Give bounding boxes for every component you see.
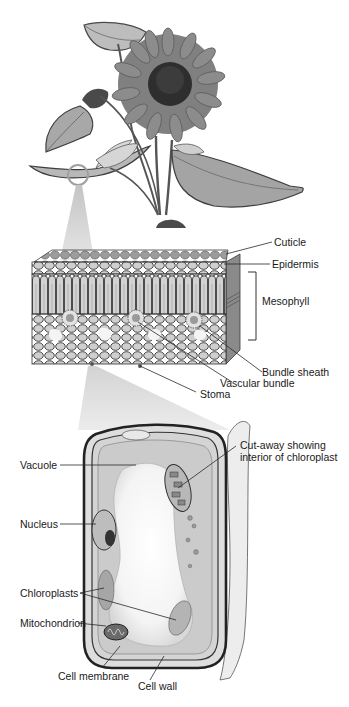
leaf-cross-section xyxy=(32,250,240,368)
label-cutaway-chloroplast: Cut-away showing interior of chloroplast xyxy=(240,439,349,463)
callout-cone-leaf xyxy=(60,185,94,260)
mitochondrion xyxy=(104,624,128,640)
label-epidermis: Epidermis xyxy=(272,258,319,270)
label-mesophyll: Mesophyll xyxy=(262,295,309,307)
illustration xyxy=(0,0,349,707)
label-cuticle: Cuticle xyxy=(274,236,306,248)
label-vacuole: Vacuole xyxy=(20,459,57,471)
mesophyll-bracket xyxy=(248,272,256,340)
label-cell-wall: Cell wall xyxy=(138,680,177,692)
nucleus xyxy=(92,510,116,550)
label-stoma: Stoma xyxy=(200,388,230,400)
label-nucleus: Nucleus xyxy=(20,518,58,530)
chloroplast xyxy=(98,570,114,610)
sunflower-plant xyxy=(30,22,303,228)
label-cell-membrane: Cell membrane xyxy=(58,670,129,682)
figure: Cuticle Epidermis Mesophyll Bundle sheat… xyxy=(0,0,349,707)
label-vascular-bundle: Vascular bundle xyxy=(220,377,295,389)
plant-cell xyxy=(84,421,250,680)
label-chloroplasts: Chloroplasts xyxy=(20,587,78,599)
stoma-pore xyxy=(90,362,94,366)
label-mitochondrion: Mitochondrion xyxy=(20,617,86,629)
